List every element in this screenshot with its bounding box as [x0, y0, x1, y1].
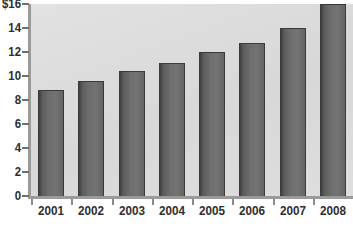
y-tick-6 [22, 123, 29, 125]
bar-chart-figure: 02468101214$16 2001200220032004200520062… [0, 0, 353, 231]
x-tick-label-2008: 2008 [313, 203, 353, 218]
x-tick-label-2002: 2002 [71, 203, 111, 218]
y-tick-label-0: 0 [0, 189, 21, 202]
y-tick-0 [22, 195, 29, 197]
x-tick-label-2001: 2001 [31, 203, 71, 218]
bar-2001 [38, 90, 64, 196]
y-tick-label-6: 6 [0, 117, 21, 130]
bar-2006 [239, 43, 265, 196]
y-tick-label-2: 2 [0, 165, 21, 178]
bar-2008 [320, 4, 346, 196]
bar-2007 [280, 28, 306, 196]
y-tick-label-12: 12 [0, 45, 21, 58]
plot-area [31, 4, 353, 196]
y-tick-4 [22, 147, 29, 149]
y-tick-12 [22, 51, 29, 53]
bar-2002 [78, 81, 104, 196]
bar-2004 [159, 63, 185, 196]
y-tick-8 [22, 99, 29, 101]
x-tick-label-2006: 2006 [232, 203, 272, 218]
bar-2003 [119, 71, 145, 196]
y-tick-label-10: 10 [0, 69, 21, 82]
bars-layer [31, 4, 353, 196]
y-tick-16 [22, 3, 29, 5]
y-tick-2 [22, 171, 29, 173]
y-tick-label-14: 14 [0, 21, 21, 34]
y-tick-14 [22, 27, 29, 29]
y-tick-10 [22, 75, 29, 77]
x-tick-label-2007: 2007 [273, 203, 313, 218]
x-tick-label-2005: 2005 [192, 203, 232, 218]
y-tick-label-16: $16 [0, 0, 21, 10]
x-tick-label-2004: 2004 [152, 203, 192, 218]
y-tick-label-4: 4 [0, 141, 21, 154]
x-tick-label-2003: 2003 [112, 203, 152, 218]
y-tick-label-8: 8 [0, 93, 21, 106]
x-axis-line [28, 196, 353, 199]
bar-2005 [199, 52, 225, 196]
